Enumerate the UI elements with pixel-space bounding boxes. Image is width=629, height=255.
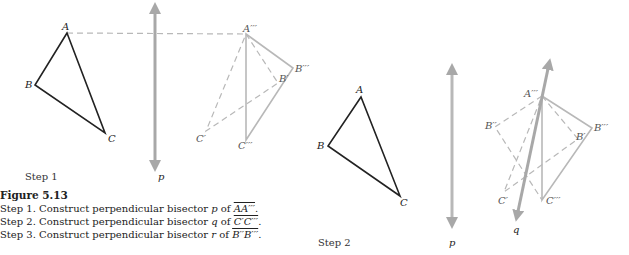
label-C-step2: C xyxy=(400,198,408,208)
bisector-q xyxy=(517,64,549,216)
caption-text: . xyxy=(255,203,258,214)
triangle-A3B1C1-dashed-step2 xyxy=(504,96,578,192)
caption-segment: AA′′′ xyxy=(234,203,255,214)
label-p-step2: p xyxy=(449,238,455,248)
label-B1: B′ xyxy=(279,74,289,84)
caption-text: Step 3. Construct perpendicular bisector xyxy=(0,229,211,240)
step1-label: Step 1 xyxy=(25,172,58,182)
triangle-ABC-step2 xyxy=(328,97,400,196)
triangle-A3B3C3-step2 xyxy=(542,96,592,200)
caption-text: . xyxy=(258,216,261,227)
label-A3-step2: A′′′ xyxy=(524,89,538,99)
figure-caption: Figure 5.13 Step 1. Construct perpendicu… xyxy=(0,189,261,241)
caption-text: Step 1. Construct perpendicular bisector xyxy=(0,203,211,214)
label-B1-step2: B′ xyxy=(576,132,586,142)
label-q: q xyxy=(513,225,519,235)
caption-segment: C′C′′′ xyxy=(234,216,258,227)
figure-title: Figure 5.13 xyxy=(0,189,261,202)
label-A: A xyxy=(62,22,69,32)
caption-text: of xyxy=(218,216,234,227)
label-C1: C′ xyxy=(196,134,206,144)
caption-text: Step 2. Construct perpendicular bisector xyxy=(0,216,211,227)
caption-line-1: Step 1. Construct perpendicular bisector… xyxy=(0,202,261,215)
triangle-A3B2C3-dashed xyxy=(495,96,542,200)
caption-line-2: Step 2. Construct perpendicular bisector… xyxy=(0,215,261,228)
label-C: C xyxy=(108,134,116,144)
label-B2-step2: B′′ xyxy=(485,121,497,131)
label-B: B xyxy=(25,80,32,90)
triangle-A3B3C3 xyxy=(246,34,293,140)
label-p-step1: p xyxy=(158,172,164,182)
label-A3: A′′′ xyxy=(243,24,257,34)
label-A-step2: A xyxy=(356,85,363,95)
label-B3-step2: B′′′ xyxy=(594,123,608,133)
triangle-ABC xyxy=(35,33,105,133)
caption-text: . xyxy=(258,229,261,240)
label-B3: B′′′ xyxy=(295,64,309,74)
label-C1-step2: C′ xyxy=(498,196,508,206)
label-C3: C′′′ xyxy=(238,141,252,151)
caption-text: of xyxy=(218,203,234,214)
caption-line-3: Step 3. Construct perpendicular bisector… xyxy=(0,228,261,241)
caption-text: of xyxy=(216,229,232,240)
label-B-step2: B xyxy=(317,141,324,151)
label-C3-step2: C′′′ xyxy=(546,196,560,206)
step2-label: Step 2 xyxy=(318,238,351,248)
caption-segment: B′′B′′′ xyxy=(232,229,258,240)
